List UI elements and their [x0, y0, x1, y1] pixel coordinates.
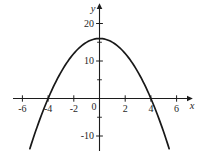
x-tick-label: 6: [174, 103, 179, 114]
y-axis-arrow-icon: [97, 3, 103, 9]
y-tick-label: -10: [81, 130, 94, 141]
parabola-figure: -6-4-22462010-100yx: [0, 0, 201, 160]
y-tick-label: 10: [84, 55, 94, 66]
y-axis-label: y: [90, 3, 96, 14]
origin-label: 0: [92, 101, 97, 112]
x-tick-label: -6: [18, 103, 26, 114]
x-tick-label: 2: [123, 103, 128, 114]
x-tick-label: -2: [70, 103, 78, 114]
y-tick-label: 20: [84, 18, 94, 29]
parabola-chart: -6-4-22462010-100yx: [0, 0, 201, 160]
x-axis-label: x: [189, 100, 195, 111]
